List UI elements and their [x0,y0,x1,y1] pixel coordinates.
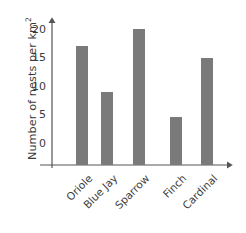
bar-chart-figure: Number of nests per km2 05101520 OrioleB… [0,0,246,233]
x-axis-label-group: OrioleBlue JaySparrowFinchCardinal [0,0,246,233]
